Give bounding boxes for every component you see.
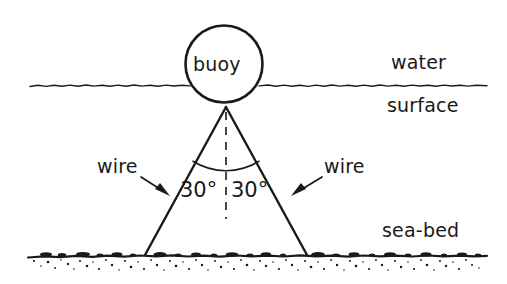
water-surface-line (30, 85, 190, 87)
wire-right-label: wire (324, 157, 365, 176)
wire-left-label: wire (97, 157, 138, 176)
angle-right-label: 30° (231, 180, 268, 201)
sea-bed-speckle (33, 259, 480, 271)
surface-label: surface (387, 96, 459, 115)
sea-bed-label: sea-bed (382, 221, 459, 240)
water-label: water (391, 53, 446, 72)
buoy-diagram-svg (0, 0, 507, 284)
angle-left-label: 30° (180, 180, 217, 201)
buoy-label: buoy (193, 55, 241, 74)
wire-right-leader-arrow (291, 177, 322, 196)
water-surface-line-right (259, 85, 487, 86)
diagram-canvas: buoy water surface sea-bed wire wire 30°… (0, 0, 507, 284)
wire-left-leader-arrow (141, 177, 170, 196)
